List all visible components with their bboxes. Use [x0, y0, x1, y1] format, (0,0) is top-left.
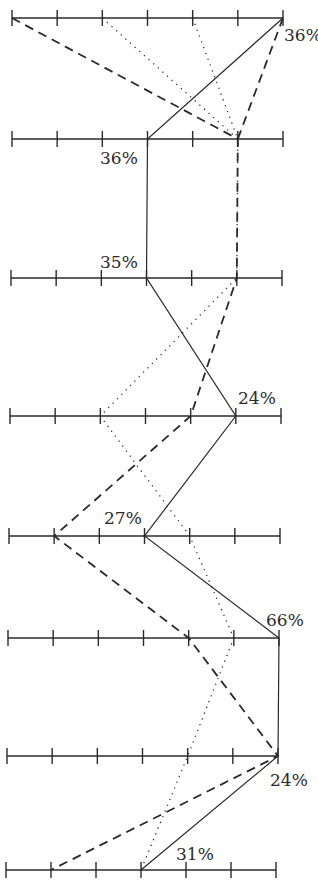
percentage-label: 24% [238, 388, 276, 408]
series-dashed [12, 18, 278, 870]
annotation-labels: 36%36%35%24%27%66%24%31% [100, 25, 318, 864]
percentage-label: 27% [104, 508, 142, 528]
percentage-label: 35% [100, 252, 138, 272]
series-dashed-b [238, 18, 283, 139]
series-solid [141, 18, 283, 870]
series-dash-dot [100, 18, 238, 870]
axes-group [6, 10, 283, 878]
percentage-label: 24% [270, 770, 308, 790]
parallel-coordinates-chart: 36%36%35%24%27%66%24%31% [0, 0, 318, 888]
axis [7, 748, 278, 764]
percentage-label: 36% [284, 25, 318, 45]
series-group [12, 18, 283, 870]
percentage-label: 36% [100, 148, 138, 168]
axis [12, 10, 283, 26]
percentage-label: 31% [176, 844, 214, 864]
axis [8, 630, 279, 646]
percentage-label: 66% [266, 610, 304, 630]
axis [10, 408, 281, 424]
